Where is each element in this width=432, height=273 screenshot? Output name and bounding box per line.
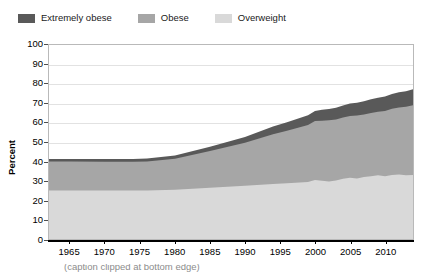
figure-caption: (caption clipped at bottom edge) xyxy=(64,264,364,273)
x-axis-line xyxy=(48,240,414,242)
x-tick-label: 1965 xyxy=(59,247,80,257)
y-tick-label: 0 xyxy=(38,235,43,245)
y-tick-label: 10 xyxy=(32,215,43,225)
legend-label-obese: Obese xyxy=(161,13,189,23)
x-tick-label: 2010 xyxy=(375,247,396,257)
x-tick-mark xyxy=(280,240,281,244)
x-tick-mark xyxy=(351,240,352,244)
x-tick-label: 1970 xyxy=(94,247,115,257)
x-tick-mark xyxy=(386,240,387,244)
legend-item-obese: Obese xyxy=(138,13,189,23)
y-tick-label: 90 xyxy=(32,59,43,69)
x-tick-label: 2005 xyxy=(340,247,361,257)
y-tick-label: 20 xyxy=(32,196,43,206)
stacked-area-series xyxy=(49,45,413,239)
y-tick-label: 60 xyxy=(32,117,43,127)
legend-swatch-overweight xyxy=(215,14,232,23)
x-tick-mark xyxy=(104,240,105,244)
x-tick-label: 2000 xyxy=(305,247,326,257)
y-tick-label: 40 xyxy=(32,157,43,167)
chart-legend: Extremely obese Obese Overweight xyxy=(18,11,286,25)
y-tick-label: 30 xyxy=(32,176,43,186)
y-tick-label: 80 xyxy=(32,78,43,88)
x-tick-label: 1980 xyxy=(164,247,185,257)
plot-area xyxy=(48,44,414,240)
chart-figure: Extremely obese Obese Overweight Percent… xyxy=(0,0,432,273)
legend-swatch-obese xyxy=(138,14,155,23)
figure-caption-text: (caption clipped at bottom edge) xyxy=(64,264,200,272)
x-tick-mark xyxy=(245,240,246,244)
x-tick-label: 1985 xyxy=(199,247,220,257)
y-axis-title: Percent xyxy=(6,128,17,188)
legend-label-overweight: Overweight xyxy=(238,13,286,23)
y-axis: Percent 0102030405060708090100 xyxy=(0,0,48,273)
x-tick-mark xyxy=(315,240,316,244)
x-tick-mark xyxy=(175,240,176,244)
y-tick-label: 70 xyxy=(32,98,43,108)
x-tick-label: 1975 xyxy=(129,247,150,257)
y-tick-label: 50 xyxy=(32,137,43,147)
x-tick-label: 1995 xyxy=(270,247,291,257)
legend-item-overweight: Overweight xyxy=(215,13,286,23)
legend-label-extremely-obese: Extremely obese xyxy=(41,13,112,23)
x-tick-mark xyxy=(69,240,70,244)
x-tick-mark xyxy=(210,240,211,244)
y-tick-label: 100 xyxy=(27,39,43,49)
x-tick-label: 1990 xyxy=(234,247,255,257)
x-tick-mark xyxy=(140,240,141,244)
